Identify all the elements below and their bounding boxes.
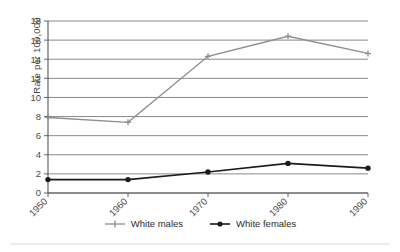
y-axis-tick-label: 6 (36, 130, 41, 141)
x-axis-tick-label: 1990 (347, 196, 370, 219)
legend-marker-white-males (104, 219, 126, 229)
y-axis-tick-label: 18 (30, 15, 41, 26)
x-axis-tick-label: 1980 (267, 196, 290, 219)
footer-divider (10, 243, 390, 245)
chart-legend: White males White females (0, 218, 400, 229)
data-point-white-females (125, 177, 130, 182)
legend-marker-white-females (209, 219, 231, 229)
legend-label-white-males: White males (131, 218, 183, 229)
data-point-white-females (205, 169, 210, 174)
y-axis-tick-label: 10 (30, 92, 41, 103)
data-point-white-females (365, 165, 370, 170)
x-axis-tick-label: 1950 (27, 196, 50, 219)
x-axis-tick-label: 1960 (107, 196, 130, 219)
legend-item-white-males[interactable]: White males (104, 218, 183, 229)
data-point-white-females (45, 177, 50, 182)
y-axis-tick-label: 2 (36, 168, 41, 179)
x-axis-tick-label: 1970 (187, 196, 210, 219)
series-line-white-males (48, 36, 368, 122)
legend-item-white-females[interactable]: White females (209, 218, 296, 229)
chart-figure: Rate per 100,000 02468101214161819501960… (0, 0, 400, 252)
y-axis-tick-label: 16 (30, 35, 41, 46)
data-point-white-females (285, 161, 290, 166)
y-axis-tick-label: 14 (30, 54, 41, 65)
y-axis-tick-label: 12 (30, 73, 41, 84)
line-chart-plot: 02468101214161819501960197019801990 (0, 0, 400, 252)
legend-label-white-females: White females (236, 218, 296, 229)
y-axis-tick-label: 8 (36, 111, 41, 122)
y-axis-tick-label: 4 (36, 149, 41, 160)
